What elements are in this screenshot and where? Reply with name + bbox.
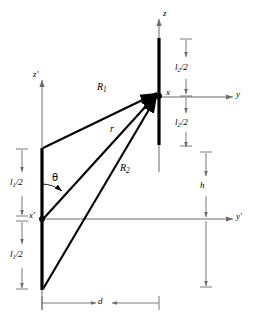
dimension-label-l2-upper-suffix: /2 [181,62,188,72]
dimension-label-h: h [200,181,205,190]
ray-r [44,94,157,218]
axis-label-y-prime: y′ [236,212,242,221]
dimension-label-d-symbol: d [98,296,103,306]
figure-canvas [0,0,255,324]
dimension-label-l1-lower: l1/2 [10,250,23,260]
ray-label-R1-subscript: 1 [103,86,107,94]
dimension-label-l2-upper: l2/2 [175,63,188,73]
axis-label-y: y [236,90,240,99]
ray-label-r-symbol: r [110,123,114,134]
ray-label-R1: R1 [97,82,107,94]
ray-R1 [43,93,157,148]
axis-label-z-prime: z′ [33,70,38,79]
dimension-label-l1-upper: l1/2 [10,178,23,188]
axis-label-x: x [166,88,170,97]
dimension-label-h-symbol: h [200,180,205,190]
axis-label-x-prime: x′ [29,211,35,220]
angle-label-theta: θ [52,173,58,183]
ray-R2 [43,96,157,289]
antenna-geometry-figure: z y z′ y′ x x′ R1 r R2 θ l2/2 l2/2 l1/2 … [0,0,255,324]
ray-label-R2: R2 [120,163,130,175]
dimension-label-l2-lower-suffix: /2 [181,117,188,127]
dimension-label-l1-lower-suffix: /2 [16,249,23,259]
dimension-label-d: d [98,297,103,306]
ray-label-r: r [110,124,114,134]
ray-label-R2-subscript: 2 [126,167,130,175]
dimension-label-l1-upper-suffix: /2 [16,177,23,187]
axis-label-z: z [163,9,167,18]
dimension-label-l2-lower: l2/2 [175,118,188,128]
theta-angle-arc [42,184,62,191]
